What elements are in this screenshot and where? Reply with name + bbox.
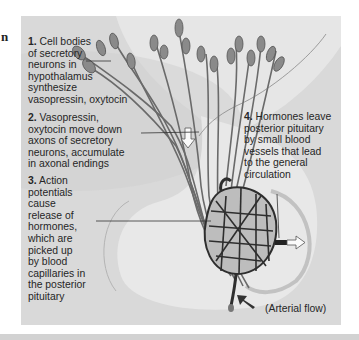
label-4: 4. Hormones leave posterior pituitary by… <box>244 111 331 181</box>
caption-fragment-bold: n <box>1 29 8 45</box>
bottom-divider <box>0 334 359 340</box>
arterial-flow-label: (Arterial flow) <box>265 303 326 315</box>
label-1: 1. Cell bodies of secretory neurons in h… <box>28 36 127 106</box>
label-2: 2. Vasopressin, oxytocin move down axons… <box>28 112 124 170</box>
label-3: 3. Action potentials cause release of ho… <box>28 175 86 303</box>
diagram-panel: 1. Cell bodies of secretory neurons in h… <box>21 16 341 325</box>
